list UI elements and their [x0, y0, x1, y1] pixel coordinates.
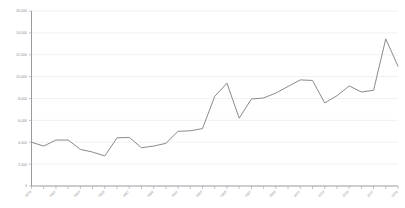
x-axis-tick-label: 2001: [293, 190, 301, 198]
y-axis-tick-label: 4,000: [18, 141, 27, 145]
y-axis-tick-label: 2,000: [18, 163, 27, 167]
x-axis-tick-label: 1987: [122, 190, 130, 198]
chart-canvas: 02,0004,0006,0008,00010,00012,00014,0001…: [0, 0, 405, 208]
x-axis-tick-label: 1981: [48, 190, 56, 198]
chart-title: [0, 0, 405, 2]
y-axis-labels: 02,0004,0006,0008,00010,00012,00014,0001…: [16, 9, 27, 188]
y-axis-tick-label: 16,000: [16, 9, 27, 13]
x-axis-labels: 1979198119831985198719891991199319951997…: [24, 190, 399, 198]
y-axis-tick-label: 14,000: [16, 31, 27, 35]
data-series-line: [32, 39, 399, 156]
y-axis-tick-label: 0: [25, 184, 27, 188]
x-axis-tick-label: 2003: [317, 190, 325, 198]
x-axis-tick-label: 1989: [146, 190, 154, 198]
x-axis-tick-label: 1995: [220, 190, 228, 198]
y-axis-tick-label: 10,000: [16, 75, 27, 79]
x-axis-tick-label: 1979: [24, 190, 32, 198]
x-axis-tick-label: 2009: [391, 190, 399, 198]
y-axis-tick-label: 8,000: [18, 97, 27, 101]
x-axis-tick-label: 1983: [73, 190, 81, 198]
x-axis-tick-label: 1991: [171, 190, 179, 198]
x-axis-tick-label: 2005: [342, 190, 350, 198]
y-axis-tick-label: 6,000: [18, 119, 27, 123]
y-axis-tick-label: 12,000: [16, 53, 27, 57]
x-axis-tick-label: 1999: [268, 190, 276, 198]
line-chart: 02,0004,0006,0008,00010,00012,00014,0001…: [0, 0, 405, 208]
x-axis-tick-label: 1985: [97, 190, 105, 198]
x-axis-tick-label: 1993: [195, 190, 203, 198]
x-axis-tick-label: 2007: [366, 190, 374, 198]
x-axis-tick-label: 1997: [244, 190, 252, 198]
